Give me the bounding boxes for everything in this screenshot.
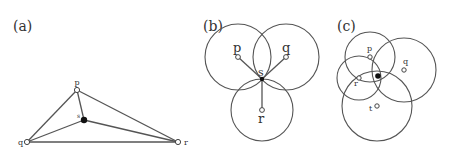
point-q (24, 139, 29, 144)
label-r: r (354, 79, 358, 88)
label-p: p (75, 78, 80, 87)
label-q: q (282, 40, 290, 55)
label-r: r (184, 138, 188, 147)
panel-b: (b) p q r s (203, 18, 319, 141)
point-s (81, 117, 87, 123)
edge-p-r (77, 90, 178, 142)
point-r (175, 139, 180, 144)
label-s: s (258, 66, 264, 79)
label-s: s (77, 112, 80, 119)
edge-r-s (84, 120, 178, 142)
point-t (375, 104, 379, 108)
point-p (236, 55, 241, 60)
edge-p-q (27, 90, 77, 142)
label-t: t (369, 104, 373, 113)
point-p (368, 55, 372, 59)
panel-a: (a) p q r s (13, 18, 188, 147)
point-q (284, 55, 289, 60)
panel-b-label: (b) (203, 18, 223, 34)
point-s (375, 73, 381, 79)
label-q: q (403, 57, 408, 66)
label-r: r (258, 111, 265, 126)
point-p (74, 87, 79, 92)
edge-q-s (262, 57, 286, 79)
point-q (402, 68, 406, 72)
panel-c-label: (c) (337, 18, 356, 34)
label-p: p (367, 44, 372, 53)
label-p: p (233, 40, 241, 55)
label-q: q (18, 138, 23, 147)
panel-a-label: (a) (13, 18, 32, 34)
voronoi-figure: (a) p q r s (b) p q r s (c) (0, 0, 452, 154)
panel-c: (c) p q r t (337, 18, 436, 141)
edge-q-s (27, 120, 84, 142)
